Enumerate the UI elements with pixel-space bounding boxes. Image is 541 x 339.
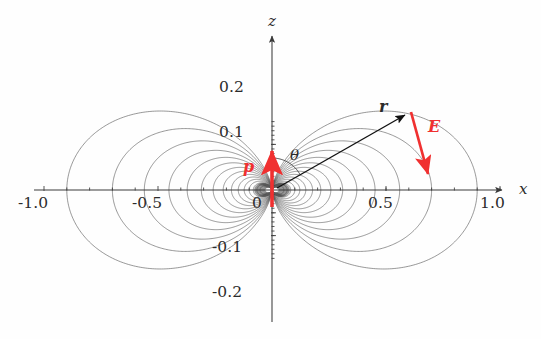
z-tick-label-minus-0-2: -0.2: [212, 285, 242, 301]
x-tick-label-plus-0-5: 0.5: [368, 196, 393, 212]
z-tick-label-minus-0-1: -0.1: [212, 240, 242, 256]
dipole-field-figure: -1.0 -0.5 0 0.5 1.0 0.2 0.1 -0.1 -0.2 x …: [0, 0, 541, 339]
E-vector-label: E: [428, 119, 440, 135]
p-vector-label: p: [243, 159, 254, 175]
x-tick-label-plus-1: 1.0: [480, 196, 505, 212]
r-vector-label: r: [379, 99, 387, 115]
theta-angle-label: θ: [290, 148, 299, 163]
z-axis-name: z: [268, 14, 276, 29]
x-tick-label-minus-0-5: -0.5: [132, 196, 162, 212]
z-tick-label-plus-0-2: 0.2: [219, 80, 244, 96]
x-tick-label-zero: 0: [252, 196, 262, 212]
E-field-arrow: [411, 112, 428, 174]
x-tick-label-minus-1: -1.0: [18, 196, 48, 212]
x-axis-name: x: [519, 182, 527, 197]
z-tick-label-plus-0-1: 0.1: [219, 125, 244, 141]
dipole-field-plot: [0, 0, 541, 339]
